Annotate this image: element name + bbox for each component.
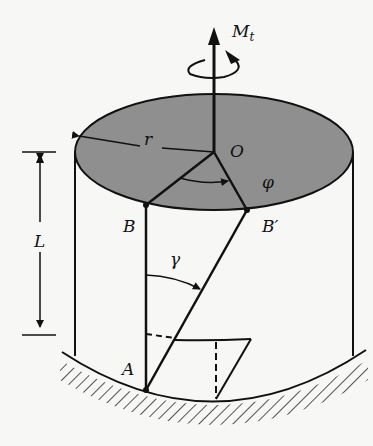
radius-label: r (144, 129, 153, 149)
torque-label: Mt (231, 21, 254, 44)
center-label: O (230, 141, 244, 161)
point-a-label: A (120, 359, 134, 379)
torque-arrowhead (208, 27, 220, 45)
point-b-prime-label: B′ (261, 216, 278, 236)
length-label: L (33, 231, 45, 251)
phi-label: φ (262, 172, 274, 192)
torsion-diagram: Mt r O φ B B′ γ L A (0, 0, 373, 446)
point-b-label: B (122, 216, 136, 236)
gamma-label: γ (170, 249, 181, 269)
diagram-svg: Mt r O φ B B′ γ L A (0, 0, 373, 446)
